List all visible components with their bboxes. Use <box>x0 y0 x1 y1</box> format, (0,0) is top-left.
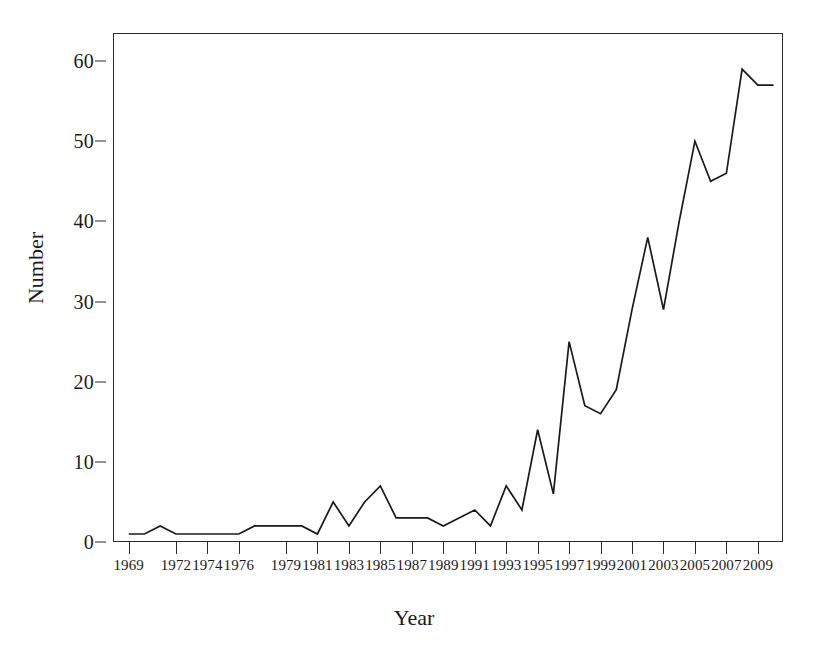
x-axis-tick-label: 1993 <box>491 558 521 573</box>
x-axis-tick-label: 1972 <box>161 558 191 573</box>
data-series-line <box>129 69 774 534</box>
y-axis-tick-label: 40 <box>73 211 94 231</box>
x-axis-tick-mark <box>632 542 633 554</box>
y-axis-title: Number <box>23 188 49 348</box>
x-axis-tick-mark <box>538 542 539 554</box>
x-axis-tick-label: 1979 <box>271 558 301 573</box>
y-axis-tick-label: 20 <box>73 372 94 392</box>
x-axis-title: Year <box>0 605 828 631</box>
x-axis-tick-mark <box>758 542 759 554</box>
y-axis-tick-mark <box>95 301 106 302</box>
x-axis-tick-label: 1987 <box>397 558 427 573</box>
x-axis-tick-label: 1976 <box>224 558 254 573</box>
x-axis-tick-mark <box>317 542 318 554</box>
x-axis-tick-mark <box>380 542 381 554</box>
x-axis-tick-label: 1969 <box>114 558 144 573</box>
y-axis-tick-mark <box>95 61 106 62</box>
x-axis-tick-label: 1983 <box>334 558 364 573</box>
plot-canvas <box>113 33 783 542</box>
x-axis-tick-mark <box>601 542 602 554</box>
y-axis-tick-label: 50 <box>73 131 94 151</box>
x-axis-tick-mark <box>129 542 130 554</box>
x-axis-tick-mark <box>506 542 507 554</box>
line-chart: 0102030405060 Number 1969197219741976197… <box>0 0 828 653</box>
x-axis-tick-label: 2001 <box>617 558 647 573</box>
y-axis-tick-mark <box>95 141 106 142</box>
x-axis-tick-label: 2003 <box>648 558 678 573</box>
x-axis-tick-mark <box>239 542 240 554</box>
y-axis-tick-label: 10 <box>73 452 94 472</box>
x-axis-tick-mark <box>286 542 287 554</box>
x-axis-tick-label: 1985 <box>365 558 395 573</box>
x-axis-tick-label: 2009 <box>743 558 773 573</box>
y-axis-tick-mark <box>95 461 106 462</box>
x-axis-tick-label: 1997 <box>554 558 584 573</box>
y-axis-tick-mark <box>95 221 106 222</box>
x-axis-tick-mark <box>443 542 444 554</box>
x-axis-tick-label: 1999 <box>585 558 615 573</box>
x-axis-tick-mark <box>663 542 664 554</box>
x-axis-tick-mark <box>475 542 476 554</box>
x-axis-tick-mark <box>412 542 413 554</box>
x-axis-tick-mark <box>569 542 570 554</box>
x-axis-tick-label: 1995 <box>522 558 552 573</box>
x-axis-tick-label: 1989 <box>428 558 458 573</box>
x-axis-tick-label: 1981 <box>302 558 332 573</box>
x-axis-tick-label: 2007 <box>711 558 741 573</box>
x-axis-tick-label: 1974 <box>192 558 222 573</box>
x-axis: 1969197219741976197919811983198519871989… <box>0 542 828 602</box>
x-axis-tick-mark <box>176 542 177 554</box>
y-axis-tick-mark <box>95 381 106 382</box>
x-axis-tick-label: 1991 <box>460 558 490 573</box>
x-axis-tick-mark <box>695 542 696 554</box>
x-axis-tick-mark <box>726 542 727 554</box>
y-axis-tick-label: 30 <box>73 292 94 312</box>
x-axis-tick-mark <box>349 542 350 554</box>
y-axis-tick-label: 60 <box>73 51 94 71</box>
x-axis-tick-label: 2005 <box>680 558 710 573</box>
x-axis-tick-mark <box>207 542 208 554</box>
